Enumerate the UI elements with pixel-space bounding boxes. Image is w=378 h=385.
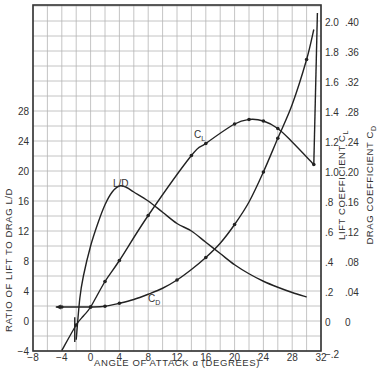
x-axis-label: ANGLE OF ATTACK α (DEGREES) [94,357,260,368]
data-point [276,136,280,140]
data-point [305,58,309,62]
x-tick-label: 28 [287,352,299,363]
y-left-tick-label: 8 [23,256,29,267]
y-cd-tick-label: .32 [345,77,359,88]
y-cl-tick-label: 1.8 [325,47,339,58]
cd-curve-label: CD [148,293,160,306]
data-point [118,259,122,263]
y-left-tick-label: 16 [18,196,30,207]
y-cd-tick-label: .36 [345,47,359,58]
data-point [233,122,237,126]
y-cl-tick-label: .4 [325,257,334,268]
y-left-tick-label: 20 [18,166,30,177]
data-point [262,170,266,174]
y-cl-tick-label: .2 [325,287,334,298]
data-point [276,127,280,131]
y-left-tick-label: 0 [23,316,29,327]
y-left-tick-label: −4 [18,346,30,357]
y-axis-right-cd-label: DRAG COEFFICIENT CD [364,125,377,244]
y-cl-tick-label: 1.4 [325,107,339,118]
data-point [262,119,266,123]
data-point [204,256,208,260]
ld-curve-label: L/D [113,178,129,189]
data-point [103,304,107,308]
grid-lines [33,5,321,351]
y-cd-tick-label: .16 [345,197,359,208]
x-tick-label: −8 [27,352,39,363]
x-tick-label: −4 [56,352,68,363]
y-cd-tick-label: .12 [345,227,359,238]
data-point [190,154,194,158]
y-cd-tick-label: .08 [345,257,359,268]
data-point [247,118,251,122]
tick-labels: −8−4048121620242832−40481216202428−.20.2… [18,17,360,364]
y-cd-tick-label: 0 [345,317,351,328]
y-cl-tick-label: −.2 [325,349,340,360]
chart: −8−4048121620242832−40481216202428−.20.2… [0,0,378,385]
y-cl-tick-label: 2.0 [325,17,339,28]
data-point [103,280,107,284]
data-point [175,278,179,282]
y-left-tick-label: 12 [18,226,30,237]
data-point [146,214,150,218]
y-cd-tick-label: .28 [345,107,359,118]
y-cd-tick-label: .04 [345,287,359,298]
y-cl-tick-label: 1.6 [325,77,339,88]
y-cl-tick-label: .8 [325,197,334,208]
y-axis-left-label: RATIO OF LIFT TO DRAG L/D [3,188,14,332]
y-cl-tick-label: .6 [325,227,334,238]
y-left-tick-label: 28 [18,106,30,117]
y-left-tick-label: 4 [23,286,29,297]
data-point [118,301,122,305]
y-cl-tick-label: 0 [325,317,331,328]
data-point [89,305,93,309]
y-left-tick-label: 24 [18,136,30,147]
curve-cd [62,30,314,308]
y-cd-tick-label: .40 [345,17,359,28]
y-cd-tick-label: .20 [345,167,359,178]
curve-cl [62,119,314,350]
data-point [233,223,237,227]
x-tick-label: 0 [88,352,94,363]
y-cd-tick-label: .24 [345,137,359,148]
cl-curve-label: CL [194,129,205,142]
data-point [204,142,208,146]
